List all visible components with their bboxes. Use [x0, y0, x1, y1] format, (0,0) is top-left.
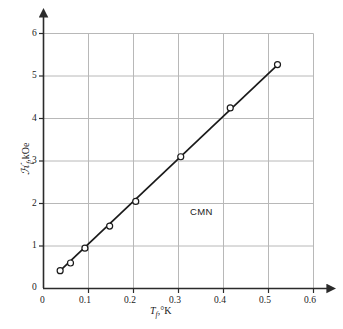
data-point — [107, 223, 113, 229]
y-axis-symbol: ℋ — [19, 164, 32, 175]
x-tick-label-5: 0.5 — [259, 296, 271, 306]
x-tick-label-0: 0 — [40, 296, 45, 306]
x-tick-label-2: 0.2 — [124, 296, 136, 306]
chart-figure: 0 1 2 3 4 5 6 0 0.1 0.2 0.3 0.4 0.5 0.6 … — [0, 0, 343, 329]
data-trend-line — [58, 64, 278, 272]
data-point — [57, 268, 63, 274]
sample-annotation-cmn: CMN — [190, 206, 213, 217]
y-tick-label-1: 1 — [32, 241, 37, 251]
x-tick-label-4: 0.4 — [214, 296, 226, 306]
y-tick-label-5: 5 — [32, 71, 37, 81]
y-tick-label-2: 2 — [32, 199, 37, 209]
data-point — [227, 105, 233, 111]
y-axis-title: ℋf,kOe — [20, 124, 34, 194]
y-tick-label-0: 0 — [32, 283, 37, 293]
x-tick-label-1: 0.1 — [79, 296, 91, 306]
y-axis-subscript: f — [25, 162, 34, 164]
x-tick-label-6: 0.6 — [304, 296, 316, 306]
plot-canvas — [0, 0, 343, 329]
x-axis-unit: °K — [160, 305, 171, 316]
y-tick-label-4: 4 — [32, 114, 37, 124]
y-axis-unit: kOe — [20, 143, 31, 160]
data-point — [275, 62, 281, 68]
data-point — [133, 198, 139, 204]
y-tick-label-6: 6 — [32, 29, 37, 39]
data-point — [82, 245, 88, 251]
x-axis-title: Tf,°K — [150, 306, 171, 319]
data-point — [178, 154, 184, 160]
data-point — [68, 260, 74, 266]
